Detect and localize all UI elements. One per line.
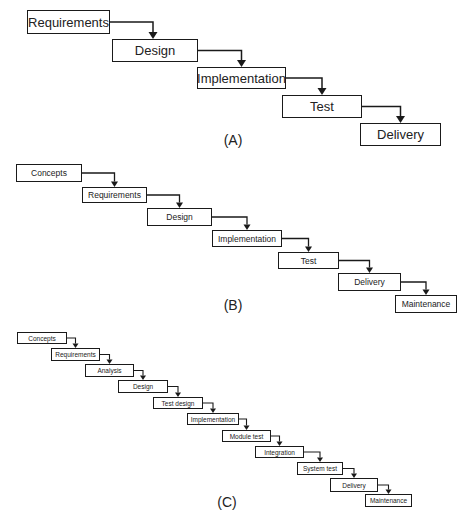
step-label: System test [303,465,337,472]
step-label: Delivery [354,277,385,287]
step-box-delivery: Delivery [338,273,401,291]
step-box-test-design: Test design [153,397,203,409]
step-box-design: Design [118,380,168,393]
connector-line [286,78,322,88]
connector-line [339,261,370,268]
step-box-test: Test [282,95,362,118]
connector-line [343,469,354,474]
step-label: Delivery [377,127,424,142]
step-label: Module test [230,433,264,440]
step-box-requirements: Requirements [27,10,110,34]
step-label: Implementation [191,416,235,423]
step-box-implementation: Implementation [197,67,286,89]
connector-line [110,22,153,32]
step-label: Maintenance [370,497,407,504]
step-box-design: Design [112,39,198,62]
step-label: Integration [264,449,295,456]
step-box-delivery: Delivery [360,123,441,146]
step-label: Maintenance [402,299,451,309]
connector-line [82,173,115,182]
connector-line [198,51,242,61]
step-box-system-test: System test [297,462,343,475]
step-box-concepts: Concepts [16,164,82,182]
connector-line [134,371,143,376]
step-label: Design [133,383,153,390]
connector-line [147,195,180,203]
step-box-implementation: Implementation [187,413,239,425]
connector-line [203,403,213,409]
connector-line [212,217,247,225]
step-box-maintenance: Maintenance [395,295,457,313]
connector-line [362,107,401,117]
caption-c: (C) [217,494,236,510]
connector-line [239,419,247,426]
step-label: Analysis [97,367,121,374]
arrowhead-icon [237,60,246,67]
connector-line [282,239,309,247]
arrowhead-icon [149,32,158,39]
step-label: Implementation [197,71,286,86]
connector-line [401,282,426,290]
step-box-concepts: Concepts [17,332,67,344]
connector-line [100,355,110,360]
caption-b: (B) [224,297,243,313]
step-label: Concepts [31,168,67,178]
connector-line [378,485,389,490]
step-label: Implementation [218,234,276,244]
step-box-implementation: Implementation [212,230,282,247]
step-label: Requirements [28,15,109,30]
connector-line [67,338,76,344]
connector-line [304,452,320,458]
step-box-requirements: Requirements [82,187,147,203]
arrowhead-icon [318,88,327,95]
step-box-requirements: Requirements [51,348,100,361]
step-label: Test [301,256,317,266]
step-label: Test design [162,400,195,407]
step-box-delivery: Delivery [330,478,378,492]
connector-line [271,436,280,442]
step-box-module-test: Module test [222,430,271,442]
step-label: Requirements [88,190,141,200]
step-box-design: Design [147,208,212,226]
connector-line [168,387,178,393]
step-label: Design [166,212,192,222]
step-box-test: Test [278,252,339,269]
caption-a: (A) [224,132,243,148]
waterfall-figure: Requirements Design Implementation Test … [0,0,471,519]
step-label: Delivery [342,482,365,489]
step-label: Design [135,43,175,58]
step-label: Requirements [55,351,95,358]
step-box-integration: Integration [255,446,304,458]
step-box-maintenance: Maintenance [365,494,412,507]
step-box-analysis: Analysis [85,364,134,377]
step-label: Concepts [28,335,55,342]
arrowhead-icon [396,116,405,123]
step-label: Test [310,99,334,114]
